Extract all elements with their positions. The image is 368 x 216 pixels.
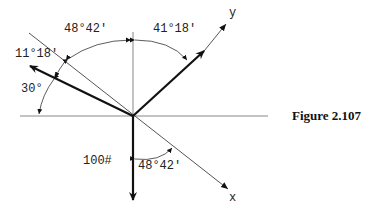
angle-label-left: 30°: [21, 83, 43, 95]
angle-label-bottom: 48°42': [138, 160, 181, 172]
force-vector-left: [30, 66, 133, 116]
x-axis-label: x: [229, 192, 236, 204]
figure-caption: Figure 2.107: [292, 109, 361, 122]
force-label: 100#: [83, 155, 112, 167]
angle-label-upper-left: 11°18': [15, 48, 58, 60]
arc-41-18-top: [135, 40, 187, 60]
arc-48-42-bottom: [135, 148, 172, 160]
figure-canvas: 48°42' 41°18' 11°18' 30° 48°42' 100# y x…: [0, 0, 368, 216]
arc-11-18: [55, 60, 66, 77]
arc-48-42-top: [68, 40, 131, 59]
angle-label-top-right: 41°18': [153, 23, 196, 35]
y-axis-label: y: [229, 7, 236, 19]
force-vector-y: [133, 51, 204, 116]
angle-label-top-left: 48°42': [64, 23, 107, 35]
